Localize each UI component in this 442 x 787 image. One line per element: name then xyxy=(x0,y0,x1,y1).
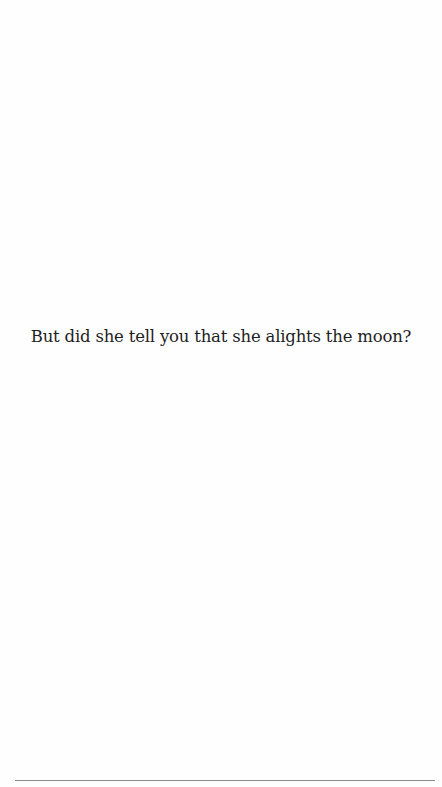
quote-text: But did she tell you that she alights th… xyxy=(0,327,442,346)
document-page: But did she tell you that she alights th… xyxy=(0,0,442,787)
bottom-divider xyxy=(15,780,435,781)
